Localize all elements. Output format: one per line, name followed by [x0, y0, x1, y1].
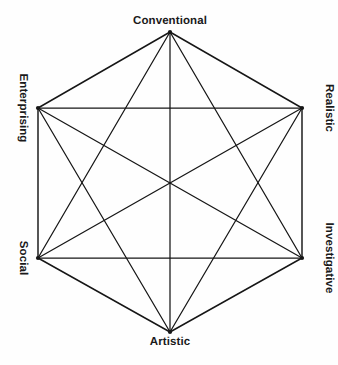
vertex-node-realistic — [300, 106, 304, 110]
vertex-node-conventional — [168, 30, 172, 34]
vertex-label-artistic: Artistic — [150, 337, 190, 349]
vertex-node-artistic — [168, 330, 172, 334]
hexagon-graph-svg — [0, 0, 338, 365]
vertex-label-realistic: Realistic — [322, 84, 334, 132]
edge-enterprising-to-conventional — [38, 32, 170, 108]
vertex-label-investigative: Investigative — [322, 223, 334, 294]
riasec-hexagon-diagram: Conventional Realistic Investigative Art… — [0, 0, 338, 365]
edge-investigative-to-artistic — [170, 258, 302, 332]
vertex-label-conventional: Conventional — [133, 16, 207, 28]
vertex-node-social — [36, 256, 40, 260]
vertex-node-enterprising — [36, 106, 40, 110]
vertex-node-investigative — [300, 256, 304, 260]
edge-artistic-to-social — [38, 258, 170, 332]
vertex-label-social: Social — [17, 241, 29, 275]
vertex-label-enterprising: Enterprising — [17, 74, 29, 143]
edge-conventional-to-realistic — [170, 32, 302, 108]
